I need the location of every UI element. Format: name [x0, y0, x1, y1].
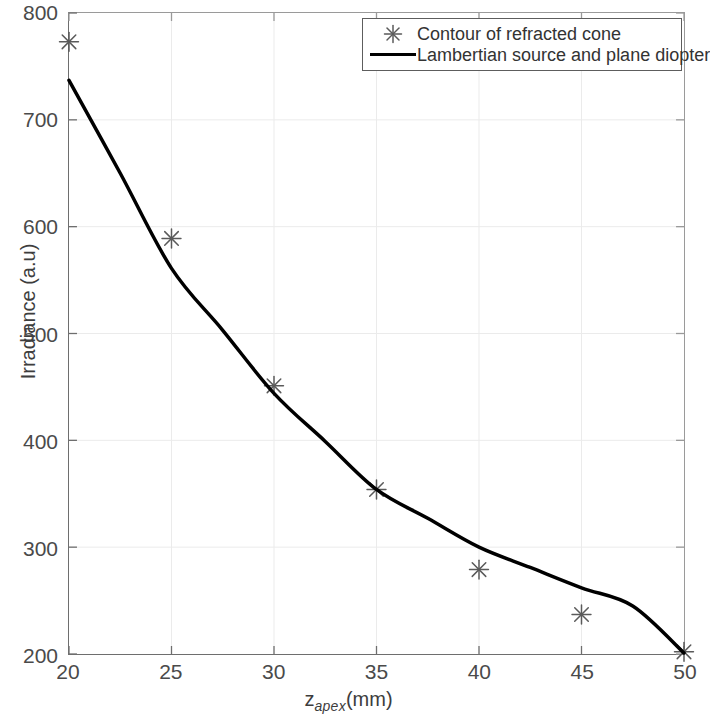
chart-legend: Contour of refracted cone Lambertian sou… [362, 18, 682, 71]
asterisk-marker-icon [369, 23, 417, 44]
legend-label-contour: Contour of refracted cone [417, 25, 621, 43]
x-tick-label-30: 30 [262, 661, 285, 682]
legend-item-lambertian: Lambertian source and plane diopter [369, 44, 675, 65]
x-tick-label-20: 20 [56, 661, 79, 682]
x-axis-tick-labels: 20253035404550 [0, 661, 697, 691]
y-tick-label-300: 300 [23, 537, 58, 558]
y-tick-label-800: 800 [23, 2, 58, 23]
y-tick-label-700: 700 [23, 109, 58, 130]
x-axis-title-unit: (mm) [346, 688, 393, 710]
x-tick-label-35: 35 [365, 661, 388, 682]
legend-item-contour: Contour of refracted cone [369, 23, 675, 44]
x-axis-title-base: z [304, 688, 314, 710]
x-axis-title-subscript: apex [314, 698, 346, 714]
x-tick-label-25: 25 [159, 661, 182, 682]
x-axis-title: zapex(mm) [0, 688, 697, 714]
line-swatch-bar [370, 53, 416, 57]
data-series-layer [69, 13, 684, 654]
y-axis-title: Irradiance (a.u) [17, 152, 40, 472]
asterisk-glyph [382, 23, 404, 45]
x-tick-label-40: 40 [468, 661, 491, 682]
line-swatch-icon [369, 44, 417, 65]
plot-area [68, 12, 685, 655]
legend-label-lambertian: Lambertian source and plane diopter [417, 46, 710, 64]
x-tick-label-45: 45 [570, 661, 593, 682]
x-tick-label-50: 50 [673, 661, 696, 682]
